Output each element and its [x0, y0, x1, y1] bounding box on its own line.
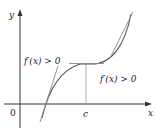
- origin-label: 0: [10, 108, 16, 118]
- c-tick-label: c: [83, 109, 88, 119]
- function-curve: [42, 14, 131, 118]
- annotation-right: f′(x) > 0: [99, 74, 137, 84]
- y-axis-label: y: [8, 10, 15, 20]
- x-axis-label: x: [148, 108, 153, 118]
- x-axis-arrow-icon: [145, 102, 152, 107]
- tangent-left: [40, 66, 58, 122]
- y-axis-arrow-icon: [18, 9, 23, 16]
- annotation-left: f′(x) > 0: [23, 56, 61, 66]
- tangent-right: [110, 12, 133, 58]
- derivative-diagram: y x 0 c f′(x) > 0 f′(x) > 0: [0, 0, 156, 136]
